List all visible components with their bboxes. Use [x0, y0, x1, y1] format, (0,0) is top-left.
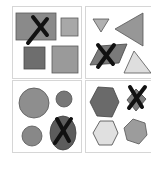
large-square[interactable] — [52, 46, 78, 73]
small-circle[interactable] — [56, 91, 72, 107]
panel-circles[interactable] — [12, 80, 82, 153]
panel-triangles[interactable] — [85, 6, 151, 79]
panel-squares[interactable] — [12, 6, 82, 79]
medium-circle[interactable] — [22, 126, 42, 146]
panel-hexagons[interactable] — [85, 80, 151, 153]
pale-triangle[interactable] — [124, 51, 151, 73]
dark-hexagon[interactable] — [90, 87, 119, 117]
small-triangle[interactable] — [93, 19, 109, 32]
dark-square[interactable] — [24, 47, 45, 69]
gray-hexagon[interactable] — [124, 119, 147, 144]
small-square[interactable] — [61, 18, 78, 36]
large-circle[interactable] — [19, 88, 49, 118]
large-triangle[interactable] — [115, 13, 143, 46]
pale-hexagon[interactable] — [93, 121, 118, 145]
